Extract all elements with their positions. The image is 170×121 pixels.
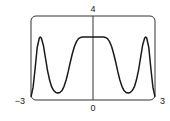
y-tick-label-top: 4	[90, 4, 95, 14]
chart: 4 −3 0 3	[0, 0, 170, 121]
x-tick-label-right: 3	[160, 96, 165, 106]
x-tick-label-left: −3	[15, 96, 25, 106]
x-tick-label-center: 0	[90, 103, 95, 113]
